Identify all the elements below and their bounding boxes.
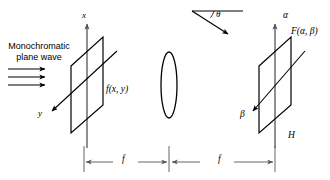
focal-length-right-label: f: [218, 154, 221, 164]
source-label-line1: Monochromatic: [4, 41, 74, 52]
focal-length-left-label: f: [122, 154, 125, 164]
output-plane-label: H: [288, 130, 295, 140]
source-label-line2: plane wave: [4, 52, 74, 63]
input-function-label: f(x, y): [106, 84, 128, 94]
angle-arc: [211, 11, 215, 18]
optics-diagram: Monochromatic plane wave x y f(x, y) θ α…: [0, 0, 330, 180]
y-axis-label: y: [38, 109, 42, 119]
angle-ray-line: [192, 11, 228, 34]
theta-angle-label: θ: [216, 10, 220, 20]
x-axis-label: x: [82, 11, 86, 21]
alpha-axis-label: α: [283, 10, 288, 20]
beta-axis-line: [253, 51, 305, 111]
output-function-label: F(α, β): [291, 26, 318, 36]
output-plane-group: [253, 24, 305, 172]
lens-ellipse: [161, 52, 177, 118]
diagram-canvas: [0, 0, 330, 180]
plane-wave-arrows: [8, 69, 45, 85]
source-label: Monochromatic plane wave: [4, 41, 74, 63]
beta-axis-label: β: [240, 109, 245, 119]
lens-group: [161, 52, 177, 172]
